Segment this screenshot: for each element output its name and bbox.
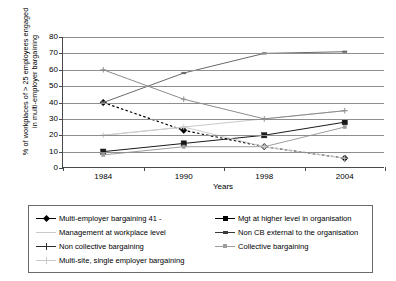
- series-line: [103, 70, 345, 119]
- gridline: [63, 86, 384, 87]
- legend-column-right: Mgt at higher level in organisationNon C…: [215, 211, 371, 253]
- x-tick-label: 1984: [94, 173, 112, 181]
- y-tick-label: 30: [49, 115, 58, 123]
- y-axis-title-line2: in multi-employer bargaining: [30, 0, 39, 171]
- y-tick-mark: [59, 37, 63, 38]
- legend-item-label: Management at workplace level: [59, 228, 166, 237]
- y-tick-label: 60: [49, 66, 58, 74]
- legend-marker-icon: [215, 212, 235, 224]
- gridline: [63, 70, 384, 71]
- x-tick-mark: [144, 167, 145, 171]
- series-6: [100, 124, 347, 161]
- series-3: [101, 51, 347, 104]
- legend-item-label: Multi-employer bargaining 41 -: [59, 214, 162, 223]
- y-axis-title: % of workplaces of > 25 employees engage…: [21, 0, 40, 171]
- y-tick-mark: [59, 70, 63, 71]
- legend-item[interactable]: Multi-employer bargaining 41 -: [36, 211, 211, 225]
- x-tick-mark: [385, 167, 386, 171]
- legend-marker-icon: [36, 212, 56, 224]
- data-point-marker: [182, 145, 185, 148]
- y-axis-title-line1: % of workplaces of > 25 employees engage…: [21, 8, 30, 155]
- legend-marker-icon: [36, 254, 56, 266]
- legend-marker-icon: [36, 240, 56, 252]
- y-tick-mark: [59, 103, 63, 104]
- x-tick-label: 2004: [336, 173, 354, 181]
- series-4: [100, 67, 347, 122]
- chart-legend: Multi-employer bargaining 41 -Management…: [28, 205, 373, 273]
- series-line: [103, 103, 345, 159]
- y-tick-label: 80: [49, 33, 58, 41]
- data-point-marker: [343, 125, 346, 128]
- legend-marker-icon: [215, 240, 235, 252]
- legend-item[interactable]: Non CB external to the organisation: [215, 225, 371, 239]
- series-line: [103, 127, 345, 158]
- legend-item[interactable]: Collective bargaining: [215, 239, 371, 253]
- y-tick-label: 70: [49, 49, 58, 57]
- legend-item-label: Non CB external to the organisation: [238, 228, 358, 237]
- data-point-marker: [342, 155, 348, 161]
- chart-figure: % of workplaces of > 25 employees engage…: [0, 0, 396, 281]
- data-point-marker: [181, 72, 186, 74]
- data-point-marker: [102, 153, 105, 156]
- plot-area: 010203040506070801984199019982004: [62, 37, 384, 168]
- gridline: [63, 53, 384, 54]
- y-tick-mark: [59, 86, 63, 87]
- gridline: [63, 135, 384, 136]
- x-tick-label: 1990: [175, 173, 193, 181]
- x-tick-label: 1998: [255, 173, 273, 181]
- x-tick-mark: [224, 167, 225, 171]
- legend-marker-icon: [36, 226, 56, 238]
- gridline: [63, 103, 384, 104]
- y-tick-label: 0: [54, 164, 58, 172]
- legend-item[interactable]: Multi-site, single employer bargaining: [36, 253, 211, 267]
- legend-item[interactable]: Non collective bargaining: [36, 239, 211, 253]
- gridline: [63, 152, 384, 153]
- y-tick-mark: [59, 152, 63, 153]
- legend-item[interactable]: Management at workplace level: [36, 225, 211, 239]
- data-point-marker: [342, 120, 347, 125]
- y-tick-label: 40: [49, 99, 58, 107]
- data-point-marker: [342, 108, 348, 114]
- y-tick-mark: [59, 53, 63, 54]
- gridline: [63, 119, 384, 120]
- data-point-marker: [181, 96, 187, 102]
- legend-item-label: Non collective bargaining: [59, 242, 144, 251]
- y-tick-label: 20: [49, 131, 58, 139]
- legend-item-label: Mgt at higher level in organisation: [238, 214, 352, 223]
- y-tick-label: 50: [49, 82, 58, 90]
- y-tick-label: 10: [49, 148, 58, 156]
- y-tick-mark: [59, 119, 63, 120]
- legend-item-label: Multi-site, single employer bargaining: [59, 256, 184, 265]
- legend-item-label: Collective bargaining: [238, 242, 309, 251]
- x-tick-mark: [305, 167, 306, 171]
- y-axis-title-wrap: % of workplaces of > 25 employees engage…: [0, 0, 34, 196]
- series-line: [103, 52, 345, 103]
- legend-column-left: Multi-employer bargaining 41 -Management…: [36, 211, 211, 267]
- legend-item[interactable]: Mgt at higher level in organisation: [215, 211, 371, 225]
- x-tick-mark: [63, 167, 64, 171]
- x-axis-title: Years: [62, 182, 384, 191]
- y-tick-mark: [59, 135, 63, 136]
- gridline: [63, 37, 384, 38]
- data-point-marker: [261, 144, 267, 150]
- legend-marker-icon: [215, 226, 235, 238]
